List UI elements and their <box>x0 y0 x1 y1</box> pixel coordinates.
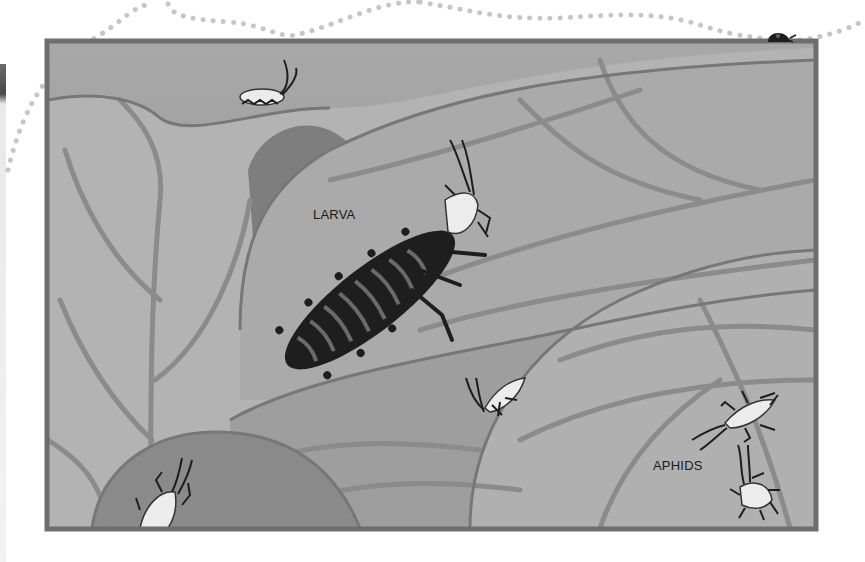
larva-label: LARVA <box>313 207 355 222</box>
leaf-scene <box>48 42 815 528</box>
illustration <box>0 0 865 562</box>
aphids-label: APHIDS <box>653 458 703 473</box>
